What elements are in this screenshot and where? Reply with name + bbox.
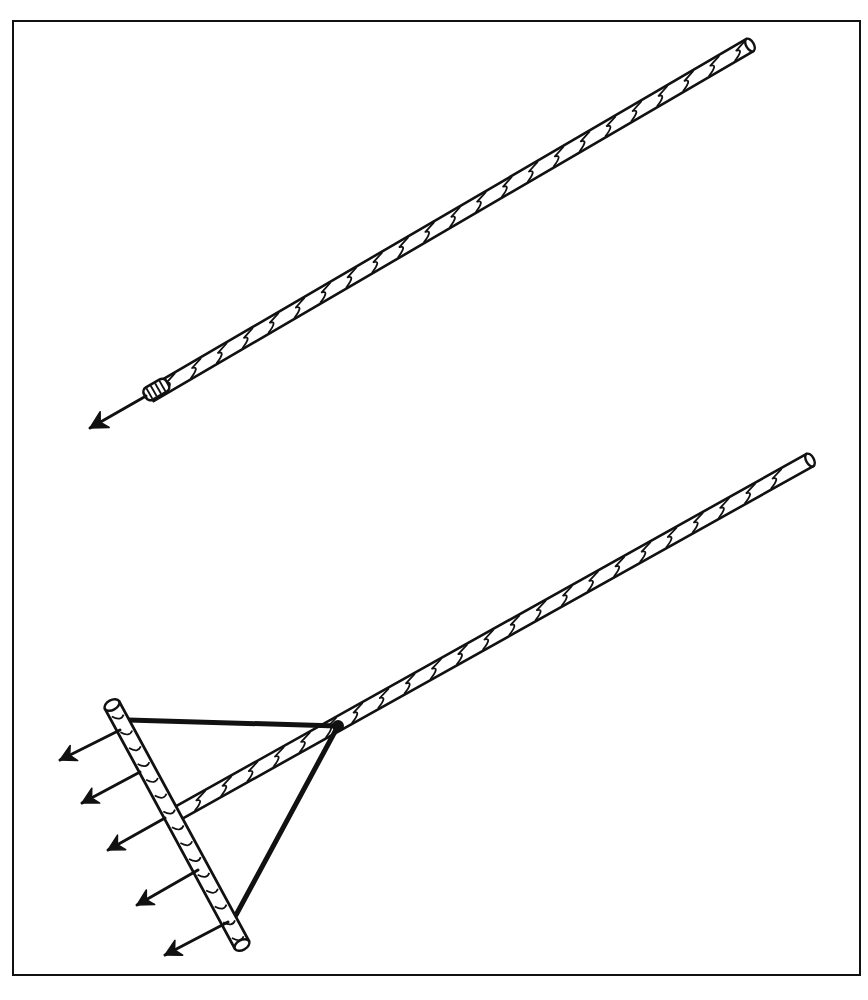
ferrule-binding xyxy=(142,377,172,402)
crossbar xyxy=(103,697,252,953)
tine-arrow-5 xyxy=(165,922,228,955)
bottom-tool xyxy=(60,452,817,955)
crossbar-body xyxy=(105,701,249,949)
shaft-edge xyxy=(146,39,746,389)
top-tool xyxy=(90,37,757,428)
top-shaft xyxy=(146,37,756,401)
shaft-edge xyxy=(154,51,754,401)
brace-top-bar xyxy=(128,720,338,726)
tools-illustration xyxy=(0,0,868,1000)
brace-joint xyxy=(332,720,344,732)
tine-arrow-4 xyxy=(137,870,198,905)
bottom-shaft xyxy=(177,452,817,818)
shaft-edge xyxy=(183,466,813,818)
shaft-edge xyxy=(177,454,807,806)
shaft-end-cap xyxy=(743,37,757,53)
shaft-end-cap xyxy=(803,452,817,468)
top-tip-arrow xyxy=(90,396,146,428)
shaft-twist-marks xyxy=(165,41,745,393)
tine-arrow-2 xyxy=(82,772,140,803)
shaft-twist-marks xyxy=(195,469,781,810)
tine-arrow-3 xyxy=(108,818,165,850)
brace-diagonal-bar xyxy=(236,726,338,915)
tine-arrow-1 xyxy=(60,730,120,761)
ferrule-body xyxy=(142,377,172,402)
